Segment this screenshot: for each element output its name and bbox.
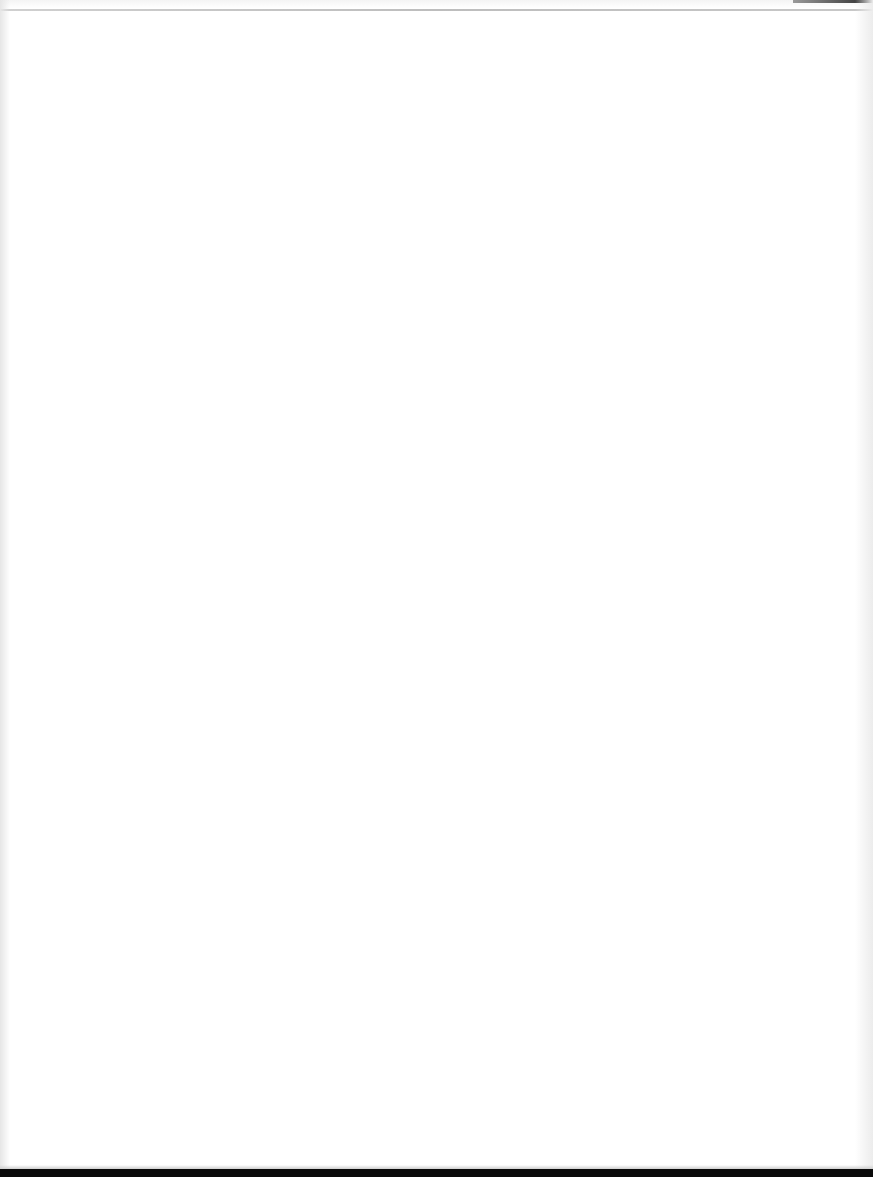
- scan-top-strip: [0, 0, 873, 8]
- page-content-area: [40, 40, 833, 1130]
- scan-bottom-band: [0, 1169, 873, 1177]
- document-page: [0, 0, 873, 1177]
- scan-top-rule: [0, 9, 873, 11]
- scan-left-edge-shadow: [0, 0, 10, 1177]
- scan-right-edge-shadow: [855, 0, 873, 1177]
